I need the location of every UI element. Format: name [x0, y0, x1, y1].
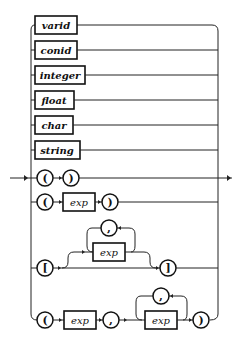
entry-arrow-icon: [10, 175, 31, 181]
terminal-integer-label: integer: [40, 70, 81, 81]
exit-arrow-icon: [218, 175, 232, 181]
list-row: [ exp , ]: [31, 220, 218, 276]
terminal-char: char: [31, 116, 218, 134]
tuple-row: ( exp , exp , ): [37, 288, 209, 329]
terminal-float: float: [31, 91, 218, 109]
right-rail: [77, 25, 218, 320]
tuple-open-paren: (: [42, 314, 47, 327]
paren-exp: exp: [70, 197, 89, 208]
paren-open: (: [42, 196, 47, 209]
unit-row: ( ): [31, 170, 218, 186]
list-exp: exp: [100, 247, 119, 258]
terminal-string: string: [31, 141, 218, 159]
paren-close: ): [107, 196, 112, 209]
terminal-varid: varid: [35, 16, 77, 34]
terminal-conid: conid: [31, 41, 218, 59]
list-close-bracket: ]: [165, 262, 170, 275]
terminal-char-label: char: [41, 120, 67, 131]
tuple-comma-loop: ,: [159, 290, 163, 303]
list-open-bracket: [: [42, 262, 47, 275]
terminal-string-label: string: [40, 145, 74, 156]
terminal-conid-label: conid: [41, 45, 72, 56]
terminal-varid-label: varid: [42, 20, 70, 31]
tuple-close-paren: ): [198, 314, 203, 327]
terminal-integer: integer: [31, 66, 218, 84]
unit-open-paren: (: [42, 172, 47, 185]
terminal-float-label: float: [40, 95, 66, 106]
syntax-diagram: varid conid integer float char string: [0, 0, 242, 341]
tuple-comma-first: ,: [109, 314, 113, 327]
paren-row: ( exp ): [31, 193, 218, 211]
tuple-exp-first: exp: [71, 315, 90, 326]
list-comma: ,: [107, 222, 111, 235]
tuple-exp-second: exp: [152, 315, 171, 326]
unit-close-paren: ): [68, 172, 73, 185]
